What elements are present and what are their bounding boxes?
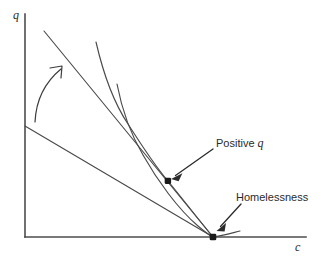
budget-shift-arrow	[35, 66, 62, 122]
homelessness-arrow-head-icon	[217, 223, 227, 232]
positive-q-arrow-line	[176, 149, 214, 176]
indifference-curve-inner	[117, 84, 240, 237]
shift-arrow-head-icon	[50, 66, 62, 78]
figure-container: q c Positive q Homelessness	[0, 0, 328, 261]
axes-group	[25, 14, 306, 237]
y-axis-label: q	[13, 9, 19, 21]
homelessness-point-marker	[210, 234, 217, 241]
budget-line-flat	[25, 126, 213, 237]
homelessness-arrow-line	[221, 204, 242, 227]
indifference-curve-outer	[96, 42, 213, 237]
budget-lines-group	[25, 31, 213, 237]
x-axis-label: c	[295, 241, 300, 253]
annotation-positive-q-symbol: q	[258, 136, 264, 150]
shift-arrow-curve	[35, 69, 61, 122]
homelessness-callout-arrow	[217, 204, 242, 232]
annotation-positive-q: Positive q	[216, 137, 264, 150]
positive-q-callout-arrow	[171, 149, 213, 181]
annotation-positive-q-prefix: Positive	[216, 137, 258, 149]
annotation-homelessness: Homelessness	[236, 191, 308, 203]
positive-q-point-marker	[165, 178, 171, 184]
indifference-curve-chart	[0, 0, 328, 261]
